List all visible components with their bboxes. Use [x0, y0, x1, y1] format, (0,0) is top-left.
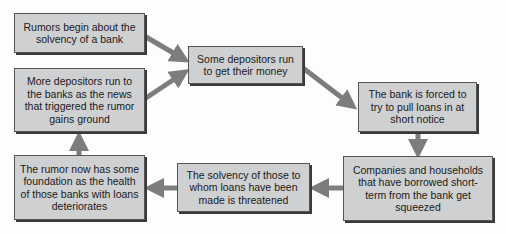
node-squeezed: Companies and households that have borro…: [343, 156, 493, 221]
node-label: Some depositors run to get their money: [193, 53, 298, 78]
node-label: Rumors begin about the solvency of a ban…: [19, 21, 140, 46]
node-label: Companies and households that have borro…: [348, 164, 488, 214]
node-solvency: The solvency of those to whom loans have…: [177, 163, 310, 212]
node-rumors: Rumors begin about the solvency of a ban…: [14, 13, 145, 53]
node-label: The rumor now has some foundation as the…: [19, 163, 140, 213]
node-pull: The bank is forced to try to pull loans …: [358, 82, 477, 132]
node-label: The bank is forced to try to pull loans …: [363, 88, 472, 126]
node-label: More depositors run to the banks as the …: [19, 75, 140, 125]
node-foundation: The rumor now has some foundation as the…: [14, 155, 145, 220]
arrow-more-to-run: [146, 74, 182, 98]
arrow-rumors-to-run: [146, 37, 182, 58]
node-label: The solvency of those to whom loans have…: [182, 169, 305, 207]
node-run: Some depositors run to get their money: [188, 46, 303, 84]
arrow-run-to-pull: [303, 68, 350, 104]
node-more: More depositors run to the banks as the …: [14, 68, 145, 132]
